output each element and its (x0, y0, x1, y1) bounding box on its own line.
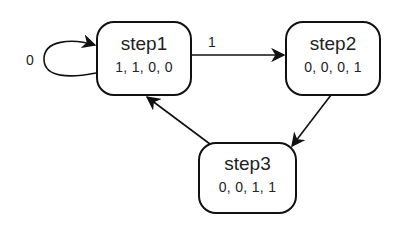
node-step1-name: step1 (98, 34, 190, 54)
node-step3-name: step3 (200, 154, 295, 174)
node-step3-values: 0, 0, 1, 1 (200, 179, 295, 195)
node-step1[interactable]: step1 1, 1, 0, 0 (96, 21, 192, 96)
node-step1-values: 1, 1, 0, 0 (98, 59, 190, 75)
edge-step2-to-step3 (292, 95, 331, 146)
node-step2[interactable]: step2 0, 0, 0, 1 (285, 21, 381, 96)
edge-label-step1-step2: 1 (208, 34, 216, 50)
edge-label-self-loop: 0 (26, 52, 34, 68)
node-step2-name: step2 (287, 34, 379, 54)
node-step3[interactable]: step3 0, 0, 1, 1 (198, 142, 297, 214)
edge-step3-to-step1 (147, 97, 218, 150)
edge-step1-self-loop (44, 41, 96, 76)
node-step2-values: 0, 0, 0, 1 (287, 59, 379, 75)
